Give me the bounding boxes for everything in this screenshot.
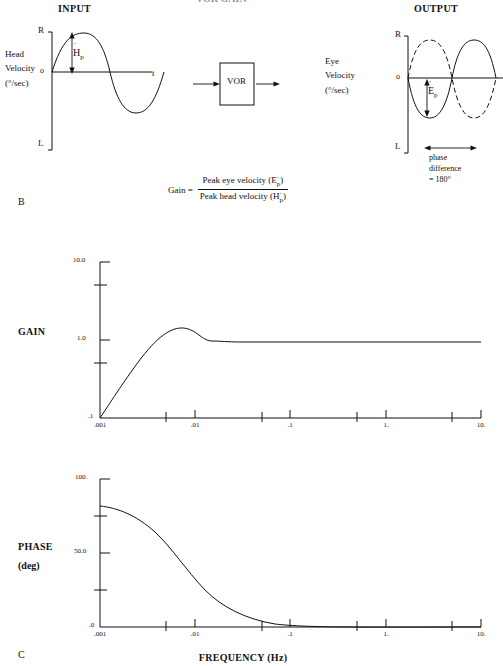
input-amplitude-arrow: [69, 32, 74, 74]
phase-ytick-label-50: 50.0: [74, 547, 86, 555]
output-axis-lines: [404, 36, 503, 153]
vor-block: [220, 63, 254, 105]
gain-curve: [100, 328, 481, 418]
gain-xtick-label-0.001: .001: [94, 421, 106, 429]
vor-output-arrow: [256, 81, 280, 86]
gain-ytick-label-10: 10.0: [73, 256, 85, 264]
phase-ytick-label-0: .0: [89, 621, 94, 629]
output-eye-velocity-waveform: [408, 40, 496, 118]
gain-ytick-label-0.1: .1: [88, 412, 93, 420]
phase-curve: [100, 506, 481, 627]
phase-xtick-label-0.1: .1: [287, 630, 292, 638]
phase-plot-axes: [94, 479, 481, 631]
phase-xtick-label-10: 10.: [477, 630, 486, 638]
gain-xtick-label-10: 10.: [477, 421, 486, 429]
input-axis-lines: [48, 32, 152, 150]
phase-difference-arrow: [424, 145, 477, 150]
gain-xtick-label-0.1: .1: [287, 421, 292, 429]
vor-input-arrow: [193, 81, 220, 86]
phase-ytick-label-100: 100.: [75, 473, 87, 481]
phase-xtick-label-1: 1.: [383, 630, 388, 638]
gain-xtick-label-1: 1.: [383, 421, 388, 429]
phase-xtick-label-0.01: .01: [191, 630, 200, 638]
figure-lineart: [0, 0, 503, 666]
output-amplitude-arrow: [424, 79, 429, 117]
gain-ytick-label-1: 1.0: [77, 334, 86, 342]
gain-xtick-label-0.01: .01: [191, 421, 200, 429]
phase-xtick-label-0.001: .001: [94, 630, 106, 638]
figure-canvas: VOR GAIN INPUT OUTPUT Head Velocity (°/s…: [0, 0, 503, 666]
input-head-velocity-waveform: [52, 33, 164, 113]
